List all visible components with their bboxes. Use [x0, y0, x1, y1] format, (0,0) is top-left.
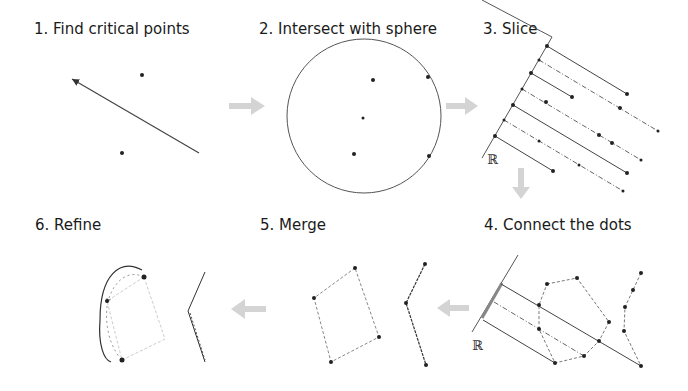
real-axis-symbol: ℝ — [487, 152, 499, 167]
left-arrow-icon — [437, 299, 469, 317]
critical-point — [120, 151, 124, 155]
direction-arrow-icon — [72, 79, 199, 153]
panel-4-connect: ℝ — [472, 255, 643, 368]
right-arrow-icon — [446, 97, 478, 115]
panel-5-merge — [312, 262, 428, 367]
left-arrow-icon — [231, 299, 266, 319]
panel-1-critical-points — [72, 73, 199, 155]
right-arrow-icon — [229, 97, 265, 115]
pipeline-diagram: ℝ ℝ — [0, 0, 688, 391]
down-arrow-icon — [512, 168, 530, 199]
critical-point — [140, 73, 144, 77]
refined-curve — [100, 266, 142, 362]
sphere-circle — [287, 39, 441, 193]
axis-line — [482, 37, 552, 158]
panel-3-slice: ℝ — [482, 0, 660, 193]
panel-6-refine — [100, 266, 205, 362]
real-axis-symbol: ℝ — [472, 338, 484, 353]
panel-2-sphere — [287, 39, 441, 193]
